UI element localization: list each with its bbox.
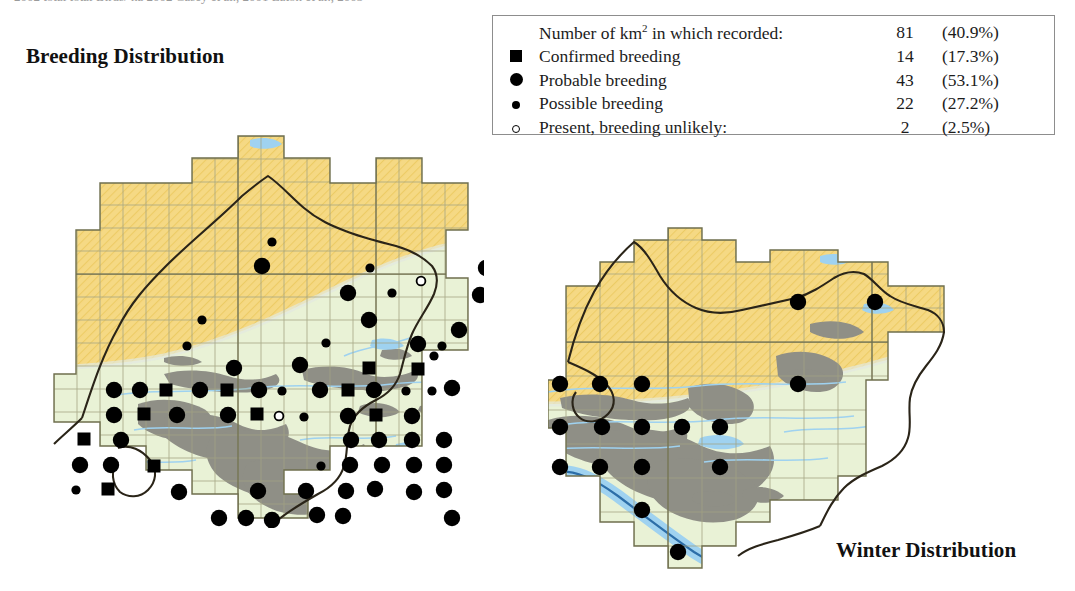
- map-marker-possible: [267, 237, 276, 246]
- map-marker-confirmed: [370, 409, 383, 422]
- map-marker-probable: [552, 376, 568, 392]
- map-marker-probable: [250, 483, 266, 499]
- legend-percent-possible: (27.2%): [942, 92, 1054, 116]
- map-marker-probable: [113, 432, 129, 448]
- map-marker-probable: [592, 376, 608, 392]
- map-marker-probable: [340, 408, 356, 424]
- legend-label-probable: Probable breeding: [539, 68, 868, 92]
- cropped-header-strip: 2002 total total Birds/ ha 2002 Casey et…: [0, 0, 1075, 10]
- map-marker-confirmed: [221, 384, 234, 397]
- winter-map-svg: [548, 222, 1060, 572]
- map-marker-probable: [790, 376, 806, 392]
- map-marker-probable: [169, 407, 185, 423]
- map-marker-probable: [436, 432, 452, 448]
- map-marker-confirmed: [148, 460, 161, 473]
- map-marker-probable: [404, 408, 420, 424]
- map-marker-probable: [171, 484, 187, 500]
- legend-label-present: Present, breeding unlikely:: [539, 115, 868, 139]
- winter-map-landmass: [548, 222, 1060, 572]
- map-marker-probable: [374, 457, 390, 473]
- map-marker-probable: [340, 285, 356, 301]
- legend-header-symbol-cell: [493, 20, 539, 44]
- map-marker-probable: [674, 419, 690, 435]
- breeding-map-title: Breeding Distribution: [26, 44, 224, 69]
- map-marker-possible: [277, 386, 286, 395]
- legend-count-possible: 22: [868, 92, 942, 116]
- legend-panel: Number of km2 in which recorded: 81 (40.…: [492, 15, 1055, 135]
- map-marker-probable: [712, 419, 728, 435]
- legend-header-row: Number of km2 in which recorded: 81 (40.…: [493, 20, 1054, 44]
- legend-percent-probable: (53.1%): [942, 68, 1054, 92]
- map-marker-confirmed: [102, 483, 115, 496]
- map-marker-confirmed: [160, 384, 173, 397]
- map-marker-probable: [343, 432, 359, 448]
- map-marker-possible: [365, 263, 374, 272]
- map-marker-probable: [790, 294, 806, 310]
- map-marker-possible: [316, 461, 325, 470]
- legend-header-label-pre: Number of km: [539, 22, 642, 42]
- map-marker-probable: [106, 382, 122, 398]
- legend-row-present: Present, breeding unlikely: 2 (2.5%): [493, 115, 1054, 139]
- map-marker-probable: [238, 510, 254, 526]
- map-marker-probable: [264, 512, 280, 528]
- map-marker-probable: [335, 508, 351, 524]
- map-marker-confirmed: [138, 408, 151, 421]
- legend-row-confirmed: Confirmed breeding 14 (17.3%): [493, 44, 1054, 68]
- legend-header-count: 81: [868, 20, 942, 44]
- map-marker-present: [417, 277, 426, 286]
- map-marker-probable: [106, 407, 122, 423]
- map-marker-probable: [103, 457, 119, 473]
- legend-count-present: 2: [868, 115, 942, 139]
- map-marker-probable: [552, 419, 568, 435]
- map-marker-probable: [634, 419, 650, 435]
- map-marker-possible: [71, 485, 80, 494]
- winter-distribution-map: [548, 222, 1060, 572]
- map-marker-probable: [292, 357, 308, 373]
- legend-row-probable: Probable breeding 43 (53.1%): [493, 68, 1054, 92]
- map-marker-possible: [182, 341, 191, 350]
- map-marker-probable: [226, 360, 242, 376]
- map-marker-probable: [367, 481, 383, 497]
- map-marker-probable: [192, 382, 208, 398]
- map-marker-probable: [670, 544, 686, 560]
- map-marker-possible: [321, 338, 330, 347]
- map-marker-possible: [427, 386, 436, 395]
- map-marker-probable: [309, 507, 325, 523]
- map-marker-possible: [197, 315, 206, 324]
- map-marker-probable: [451, 322, 467, 338]
- small-filled-circle-icon: [493, 92, 539, 116]
- map-marker-probable: [72, 457, 88, 473]
- map-marker-probable: [634, 459, 650, 475]
- legend-row-possible: Possible breeding 22 (27.2%): [493, 92, 1054, 116]
- map-marker-probable: [472, 287, 484, 303]
- large-filled-circle-icon: [493, 68, 539, 92]
- filled-square-icon: [493, 44, 539, 68]
- map-marker-probable: [251, 382, 267, 398]
- map-marker-possible: [429, 351, 438, 360]
- map-marker-probable: [406, 457, 422, 473]
- map-marker-confirmed: [251, 408, 264, 421]
- map-marker-possible: [387, 288, 396, 297]
- map-marker-probable: [220, 407, 236, 423]
- legend-percent-confirmed: (17.3%): [942, 44, 1054, 68]
- map-marker-confirmed: [78, 433, 91, 446]
- map-marker-probable: [594, 419, 610, 435]
- map-marker-probable: [444, 380, 460, 396]
- map-marker-confirmed: [363, 362, 376, 375]
- map-marker-probable: [634, 376, 650, 392]
- cropped-header-text: 2002 total total Birds/ ha 2002 Casey et…: [14, 0, 363, 5]
- winter-administrative-boundary-south: [738, 526, 820, 556]
- map-marker-probable: [592, 459, 608, 475]
- legend-header-percent: (40.9%): [942, 20, 1054, 44]
- map-marker-probable: [132, 382, 148, 398]
- breeding-map-svg: [14, 88, 484, 528]
- legend-header-label: Number of km2 in which recorded:: [539, 20, 868, 44]
- map-marker-probable: [478, 260, 484, 276]
- map-marker-probable: [436, 482, 452, 498]
- legend-percent-present: (2.5%): [942, 115, 1054, 139]
- map-marker-probable: [436, 457, 452, 473]
- map-marker-probable: [404, 432, 420, 448]
- legend-label-possible: Possible breeding: [539, 92, 868, 116]
- winter-map-title: Winter Distribution: [836, 538, 1016, 563]
- map-marker-possible: [401, 386, 410, 395]
